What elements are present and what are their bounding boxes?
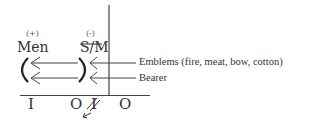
right-bracket — [79, 58, 85, 82]
left-bracket — [22, 58, 28, 82]
emblems-label: Emblems (fire, meat, bow, cotton) — [139, 57, 283, 68]
men-label: Men — [17, 40, 49, 54]
sm-label: S/M — [80, 40, 109, 54]
small-arrow — [83, 113, 91, 118]
plus-sign: (+) — [26, 30, 39, 38]
minus-sign: (-) — [86, 30, 95, 38]
inner-arrows — [31, 57, 78, 84]
baseline-mark-3: I — [91, 97, 97, 112]
bearer-label: Bearer — [139, 73, 167, 84]
baseline-mark-2: O — [70, 97, 82, 112]
baseline-mark-4: O — [119, 97, 131, 112]
baseline-mark-1: I — [28, 97, 34, 112]
outer-arrows — [90, 57, 136, 84]
